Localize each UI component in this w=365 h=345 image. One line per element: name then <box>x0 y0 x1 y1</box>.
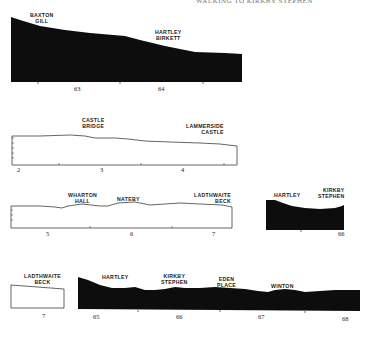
place-label-line: NATEBY <box>117 196 140 202</box>
place-label-hartley: HARTLEY <box>274 192 301 198</box>
tick-label-64: 64 <box>158 85 165 92</box>
tick-label-67: 67 <box>258 313 265 320</box>
profile-4 <box>266 200 344 232</box>
place-label-line: HALL <box>68 198 97 204</box>
tick-label-2: 2 <box>17 166 20 173</box>
tick-label-4: 4 <box>181 166 184 173</box>
place-label-line: STEPHEN <box>318 193 345 199</box>
tick-label-65: 65 <box>93 313 100 320</box>
place-label-ladthwaite-beck: LADTHWAITE BECK <box>194 192 231 204</box>
place-label-lammerside-castle: LAMMERSIDE CASTLE <box>186 123 224 135</box>
profile-1 <box>11 17 242 84</box>
place-label-line: BRIDGE <box>82 123 105 129</box>
tick-label-7: 7 <box>42 312 45 319</box>
place-label-line: GILL <box>30 18 54 24</box>
place-label-hartley: HARTLEY <box>102 274 129 280</box>
tick-label-7: 7 <box>212 230 215 237</box>
tick-label-6: 6 <box>130 230 133 237</box>
place-label-wharton-hall: WHARTON HALL <box>68 192 97 204</box>
tick-label-66: 66 <box>176 313 183 320</box>
place-label-line: CASTLE <box>186 129 224 135</box>
place-label-eden-place: EDEN PLACE <box>217 276 236 288</box>
profile-5 <box>11 285 64 308</box>
place-label-castle-bridge: CASTLE BRIDGE <box>82 117 105 129</box>
place-label-winton: WINTON <box>271 283 294 289</box>
place-label-line: PLACE <box>217 282 236 288</box>
tick-label-68: 68 <box>342 315 349 322</box>
tick-label-66: 66 <box>338 230 345 237</box>
place-label-line: BIRKETT <box>155 35 182 41</box>
place-label-nateby: NATEBY <box>117 196 140 202</box>
place-label-line: WINTON <box>271 283 294 289</box>
tick-label-63: 63 <box>74 85 81 92</box>
place-label-line: BECK <box>24 279 61 285</box>
place-label-ladthwaite-beck: LADTHWAITE BECK <box>24 273 61 285</box>
place-label-line: BECK <box>194 198 231 204</box>
profile-2 <box>12 135 237 165</box>
tick-label-5: 5 <box>46 230 49 237</box>
profile-3 <box>11 202 232 228</box>
place-label-kirkby-stephen: KIRKBY STEPHEN <box>318 187 345 199</box>
place-label-kirkby-stephen: KIRKBY STEPHEN <box>161 273 188 285</box>
place-label-line: HARTLEY <box>102 274 129 280</box>
place-label-line: HARTLEY <box>274 192 301 198</box>
tick-label-3: 3 <box>100 166 103 173</box>
place-label-line: STEPHEN <box>161 279 188 285</box>
place-label-baxton-gill: BAXTON GILL <box>30 12 54 24</box>
place-label-hartley-birkett: HARTLEY BIRKETT <box>155 29 182 41</box>
